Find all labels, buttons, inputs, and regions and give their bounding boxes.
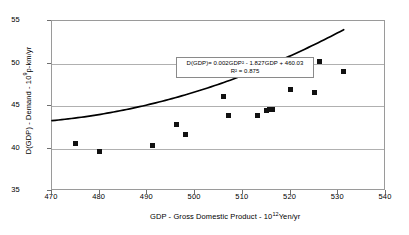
data-point: [73, 141, 78, 146]
y-axis-title: D(GDP) - Demand - 109p-km/yr: [24, 21, 33, 181]
data-point: [150, 143, 155, 148]
x-tick-mark-510: [242, 190, 243, 194]
x-tick-label-540: 540: [368, 193, 402, 201]
data-point: [317, 59, 322, 64]
x-tick-mark-540: [385, 190, 386, 194]
r-squared-text: R² = 0.875: [180, 68, 310, 76]
x-tick-label-530: 530: [320, 193, 354, 201]
x-tick-mark-500: [194, 190, 195, 194]
x-tick-mark-490: [146, 190, 147, 194]
x-tick-label-500: 500: [177, 193, 211, 201]
equation-annotation-box: D(GDP)= 0.002GDP² - 1.827GDP + 460.03 R²…: [176, 57, 314, 78]
regression-equation-text: D(GDP)= 0.002GDP² - 1.827GDP + 460.03: [180, 60, 310, 68]
data-point: [312, 90, 317, 95]
x-tick-mark-480: [99, 190, 100, 194]
chart-container: 3540455055 470480490500510520530540 D(GD…: [0, 0, 409, 235]
regression-curve: [52, 21, 384, 189]
data-point: [174, 122, 179, 127]
data-point: [221, 94, 226, 99]
data-point: [255, 113, 260, 118]
x-tick-label-490: 490: [129, 193, 163, 201]
y-axis-title-exponent: 9: [22, 72, 28, 75]
data-point: [270, 107, 275, 112]
data-point: [341, 69, 346, 74]
x-tick-label-510: 510: [225, 193, 259, 201]
x-axis-title-tail: Yen/yr: [279, 212, 301, 221]
data-point: [97, 149, 102, 154]
x-axis-title: GDP - Gross Domestic Product - 1012Yen/y…: [150, 212, 400, 221]
x-axis-title-main: GDP - Gross Domestic Product - 10: [150, 212, 272, 221]
x-tick-mark-470: [51, 190, 52, 194]
x-tick-label-520: 520: [273, 193, 307, 201]
y-axis-title-main: D(GDP) - Demand - 10: [24, 76, 33, 155]
x-tick-label-480: 480: [82, 193, 116, 201]
data-point: [288, 87, 293, 92]
x-tick-label-470: 470: [34, 193, 68, 201]
plot-area: [51, 20, 385, 190]
y-axis-title-tail: p-km/yr: [24, 47, 33, 73]
x-tick-mark-520: [290, 190, 291, 194]
data-point: [183, 132, 188, 137]
data-point: [226, 113, 231, 118]
x-tick-mark-530: [337, 190, 338, 194]
